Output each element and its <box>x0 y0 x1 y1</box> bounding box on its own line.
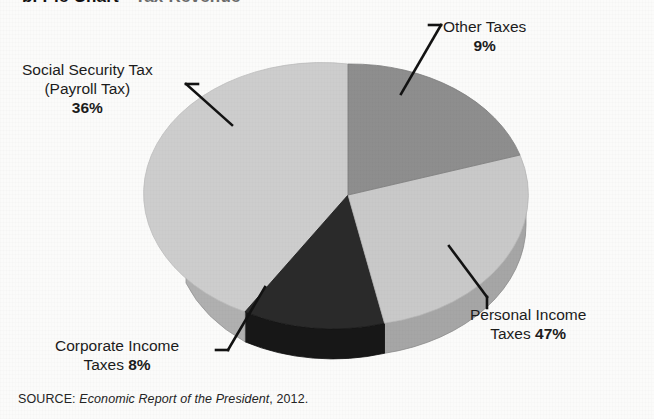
label-corporate-income: Corporate Income Taxes 8% <box>55 336 179 374</box>
label-other-taxes: Other Taxes 9% <box>443 17 526 55</box>
source-prefix: SOURCE: <box>18 392 76 406</box>
label-corporate-income-name-line1: Corporate Income <box>55 336 179 355</box>
label-social-security-name-line1: Social Security Tax <box>22 60 153 79</box>
label-social-security-value: 36% <box>22 98 153 117</box>
label-other-taxes-name: Other Taxes <box>443 17 526 36</box>
label-personal-income-value: 47% <box>535 325 566 342</box>
figure-title-caption: Tax Revenue <box>135 0 241 6</box>
label-personal-income-name-line1: Personal Income <box>470 305 586 324</box>
label-social-security: Social Security Tax (Payroll Tax) 36% <box>22 60 153 117</box>
pie-chart-figure: b. Pie ChartTax Revenue <box>0 0 654 419</box>
label-social-security-name-line2: (Payroll Tax) <box>22 79 153 98</box>
source-work-title: Economic Report of the President <box>79 392 269 406</box>
source-note: SOURCE: Economic Report of the President… <box>18 392 308 406</box>
label-personal-income-line2: Taxes 47% <box>470 324 586 343</box>
label-corporate-income-line2: Taxes 8% <box>55 355 179 374</box>
label-corporate-income-name-line2: Taxes <box>83 356 124 373</box>
figure-title: b. Pie ChartTax Revenue <box>22 0 241 7</box>
figure-title-label: b. Pie Chart <box>22 0 119 6</box>
source-year: , 2012. <box>269 392 308 406</box>
pie-top-faces <box>144 63 529 329</box>
label-other-taxes-value: 9% <box>443 36 526 55</box>
label-personal-income: Personal Income Taxes 47% <box>470 305 586 343</box>
label-corporate-income-value: 8% <box>128 356 150 373</box>
label-personal-income-name-line2: Taxes <box>490 325 531 342</box>
